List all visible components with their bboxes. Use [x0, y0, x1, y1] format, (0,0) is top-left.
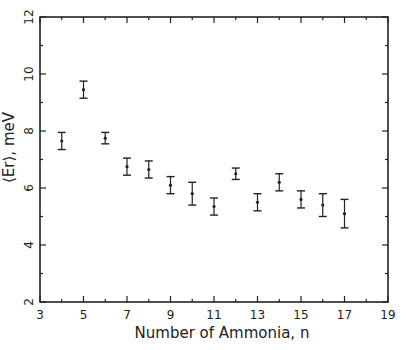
data-point [297, 191, 305, 208]
data-point [123, 158, 131, 175]
point-marker [299, 198, 302, 201]
data-point [188, 182, 196, 205]
y-axis-label: ⟨Er⟩, meV [0, 111, 18, 183]
point-marker [278, 181, 281, 184]
point-marker [60, 139, 63, 142]
data-point [167, 177, 175, 194]
data-point [341, 199, 349, 228]
tick-labels: 3579111315171924681012 [22, 9, 396, 322]
point-marker [256, 201, 259, 204]
data-point [145, 161, 153, 178]
y-tick-label: 4 [22, 241, 36, 249]
data-point [232, 168, 240, 179]
x-tick-label: 9 [167, 308, 175, 322]
x-tick-label: 5 [80, 308, 88, 322]
data-point [319, 194, 327, 217]
x-tick-label: 7 [123, 308, 131, 322]
data-point [101, 132, 109, 143]
data-point [254, 194, 262, 211]
point-marker [169, 184, 172, 187]
y-tick-label: 10 [22, 66, 36, 81]
x-tick-label: 11 [206, 308, 221, 322]
point-marker [212, 205, 215, 208]
point-marker [191, 192, 194, 195]
point-marker [321, 204, 324, 207]
y-tick-label: 2 [22, 298, 36, 306]
x-tick-label: 15 [293, 308, 308, 322]
y-tick-label: 6 [22, 184, 36, 192]
data-points [58, 81, 349, 228]
point-marker [125, 165, 128, 168]
chart: 3579111315171924681012 Number of Ammonia… [0, 0, 406, 350]
point-marker [104, 137, 107, 140]
data-point [58, 132, 66, 149]
point-marker [343, 212, 346, 215]
point-marker [82, 88, 85, 91]
x-tick-label: 19 [380, 308, 395, 322]
axis-ticks [40, 17, 388, 302]
plot-frame [40, 17, 388, 302]
x-tick-label: 3 [36, 308, 44, 322]
point-marker [234, 172, 237, 175]
data-point [80, 81, 88, 98]
x-axis-label: Number of Ammonia, n [135, 324, 310, 342]
x-tick-label: 17 [337, 308, 352, 322]
point-marker [147, 168, 150, 171]
y-tick-label: 12 [22, 9, 36, 24]
x-tick-label: 13 [250, 308, 265, 322]
y-tick-label: 8 [22, 127, 36, 135]
data-point [275, 174, 283, 191]
data-point [210, 198, 218, 215]
